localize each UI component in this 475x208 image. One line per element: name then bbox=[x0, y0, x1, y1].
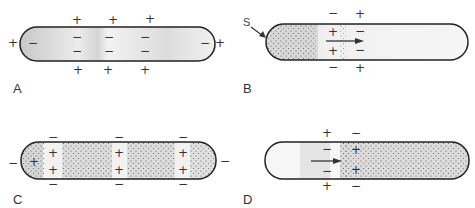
svg-text:−: − bbox=[8, 156, 18, 170]
svg-text:+: + bbox=[73, 63, 83, 77]
panel-label-b: B bbox=[243, 81, 252, 96]
svg-text:−: − bbox=[48, 177, 58, 191]
svg-text:+: + bbox=[108, 13, 118, 27]
svg-text:+: + bbox=[355, 7, 365, 21]
panel-c: − + − + + − − + + − − + + − − C bbox=[8, 130, 230, 207]
svg-text:+: + bbox=[48, 146, 58, 160]
panel-label-c: C bbox=[13, 192, 22, 207]
svg-text:−: − bbox=[178, 177, 188, 191]
svg-text:+: + bbox=[48, 163, 58, 177]
svg-text:+: + bbox=[215, 36, 225, 50]
svg-text:+: + bbox=[72, 13, 82, 27]
svg-text:+: + bbox=[8, 36, 18, 50]
svg-text:−: − bbox=[178, 130, 188, 144]
svg-text:−: − bbox=[351, 179, 361, 193]
svg-text:−: − bbox=[28, 36, 38, 50]
svg-text:−: − bbox=[104, 44, 114, 58]
svg-text:−: − bbox=[355, 43, 365, 57]
svg-text:−: − bbox=[72, 44, 82, 58]
svg-text:+: + bbox=[145, 12, 155, 26]
svg-text:−: − bbox=[220, 154, 230, 168]
panel-label-a: A bbox=[13, 81, 22, 96]
svg-text:−: − bbox=[104, 30, 114, 44]
panel-label-d: D bbox=[243, 192, 252, 207]
svg-text:−: − bbox=[322, 142, 332, 156]
svg-text:+: + bbox=[351, 163, 361, 177]
svg-text:+: + bbox=[29, 155, 39, 169]
nerve-fiber-a bbox=[20, 27, 215, 61]
svg-text:+: + bbox=[328, 25, 338, 39]
svg-text:−: − bbox=[200, 36, 210, 50]
svg-text:−: − bbox=[140, 30, 150, 44]
svg-text:−: − bbox=[114, 130, 124, 144]
svg-text:−: − bbox=[328, 6, 338, 20]
svg-text:−: − bbox=[114, 177, 124, 191]
svg-text:+: + bbox=[355, 61, 365, 75]
svg-text:+: + bbox=[114, 146, 124, 160]
svg-text:−: − bbox=[351, 126, 361, 140]
svg-text:+: + bbox=[328, 44, 338, 58]
svg-text:+: + bbox=[178, 163, 188, 177]
nerve-impulse-diagram: + + + + + + + + − − − − − − − − A S bbox=[0, 0, 475, 208]
svg-text:+: + bbox=[178, 146, 188, 160]
svg-text:−: − bbox=[140, 44, 150, 58]
svg-text:−: − bbox=[322, 164, 332, 178]
svg-text:−: − bbox=[355, 24, 365, 38]
svg-text:−: − bbox=[328, 60, 338, 74]
svg-text:+: + bbox=[140, 63, 150, 77]
panel-b: S − + + − + − − + B bbox=[243, 6, 468, 96]
svg-text:−: − bbox=[48, 130, 58, 144]
svg-text:+: + bbox=[351, 143, 361, 157]
svg-text:+: + bbox=[322, 179, 332, 193]
stimulus-label: S bbox=[243, 16, 250, 28]
svg-text:+: + bbox=[114, 163, 124, 177]
svg-text:+: + bbox=[322, 126, 332, 140]
svg-text:+: + bbox=[103, 63, 113, 77]
svg-text:−: − bbox=[72, 30, 82, 44]
panel-a: + + + + + + + + − − − − − − − − A bbox=[8, 12, 225, 96]
panel-d: + − − + − + + − D bbox=[243, 126, 469, 207]
